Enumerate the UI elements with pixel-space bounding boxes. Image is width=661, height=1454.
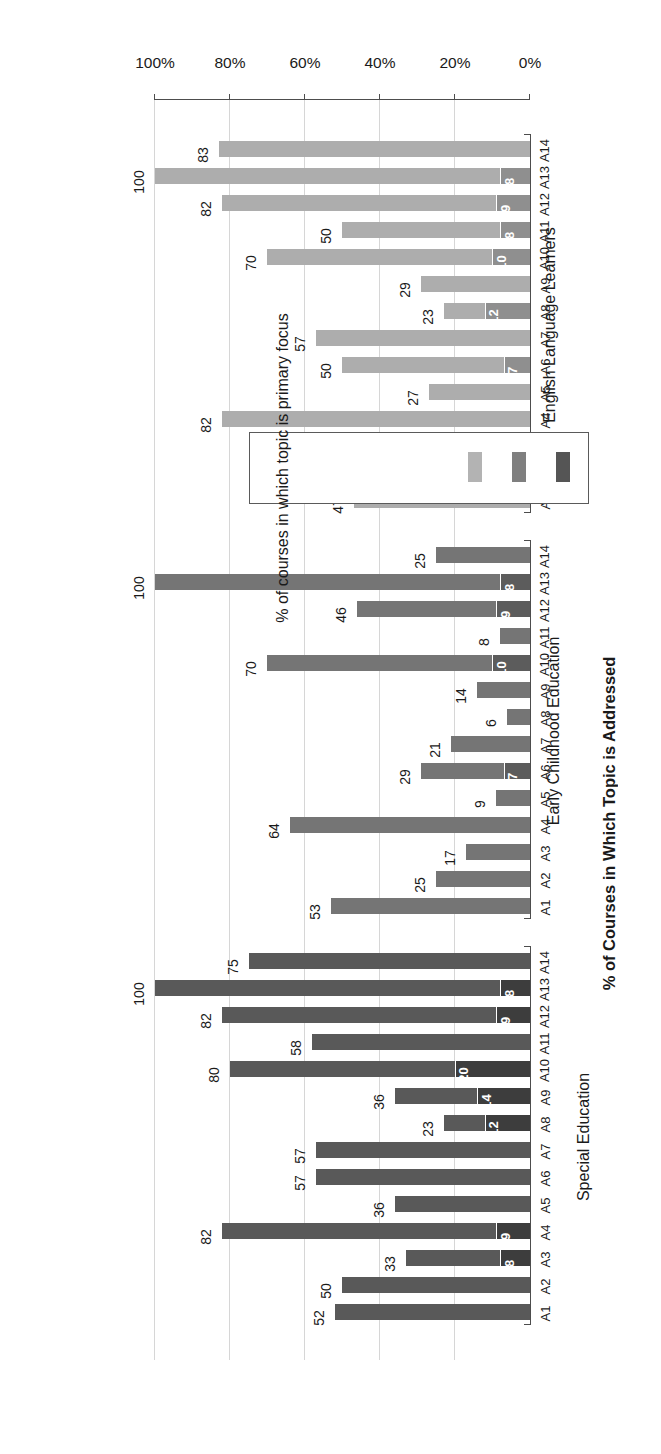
bar-primary-value-label: 9: [494, 1229, 516, 1244]
category-label: A2: [534, 873, 556, 888]
axis-tick-label: 80%: [200, 54, 260, 72]
bar-addressed[interactable]: [223, 1223, 531, 1239]
bar-row: A914: [155, 676, 530, 703]
category-label: A8: [534, 305, 556, 320]
bar-value-label: 57: [287, 1175, 313, 1191]
bar-primary-value-label: 7: [502, 363, 524, 378]
bar-row: A12982: [155, 1001, 530, 1028]
bar-addressed[interactable]: [331, 898, 530, 914]
bar-addressed[interactable]: [508, 709, 531, 725]
bar-addressed[interactable]: [466, 844, 530, 860]
bar-addressed[interactable]: [429, 384, 530, 400]
bar-row: A929: [155, 270, 530, 297]
bar-addressed[interactable]: [249, 953, 530, 969]
bar-addressed[interactable]: [395, 1196, 530, 1212]
bar-value-label: 53: [302, 904, 328, 920]
bar-addressed[interactable]: [155, 980, 530, 996]
group-title: English Language Learners: [568, 316, 648, 334]
bar-value-label: 23: [415, 1121, 441, 1137]
category-label: A10: [534, 251, 556, 266]
legend-contents: % of courses in which topic is primary f…: [250, 433, 588, 503]
category-label: A10: [534, 657, 556, 672]
bar-value-label: 25: [407, 877, 433, 893]
bar-row: A3833: [155, 1244, 530, 1271]
bar-addressed[interactable]: [290, 817, 530, 833]
bar-addressed[interactable]: [451, 736, 530, 752]
axis-tick-label: 0%: [500, 54, 560, 72]
bar-row: A317: [155, 838, 530, 865]
category-label: A8: [534, 711, 556, 726]
category-label: A3: [534, 1252, 556, 1267]
bar-addressed[interactable]: [223, 411, 531, 427]
bar-addressed[interactable]: [219, 141, 530, 157]
bar-value-label: 57: [287, 1148, 313, 1164]
category-label: A14: [534, 955, 556, 970]
category-label: A14: [534, 143, 556, 158]
category-label: A4: [534, 1225, 556, 1240]
bar-row: A721: [155, 730, 530, 757]
plot-area: 0%20%40%60%80%100% Special EducationA152…: [155, 100, 530, 1360]
category-label: A13: [534, 982, 556, 997]
bar-addressed[interactable]: [436, 871, 530, 887]
category-label: A12: [534, 603, 556, 618]
bar-addressed[interactable]: [496, 790, 530, 806]
bar-value-label: 100: [126, 580, 152, 596]
bar-row: A1158: [155, 1028, 530, 1055]
bar-value-label: 29: [392, 769, 418, 785]
value-axis-title-text: % of Courses in Which Topic is Addressed: [600, 657, 619, 991]
bar-addressed[interactable]: [313, 1034, 531, 1050]
bar-primary-value-label: 8: [498, 228, 520, 243]
bar-row: A11850: [155, 216, 530, 243]
category-label: A8: [534, 1117, 556, 1132]
axis-tick: [529, 94, 530, 100]
bar-row: A1475: [155, 947, 530, 974]
bar-row: A153: [155, 892, 530, 919]
bar-addressed[interactable]: [343, 1277, 531, 1293]
bar-addressed[interactable]: [500, 628, 530, 644]
category-label: A1: [534, 1306, 556, 1321]
bar-primary-value-label: 7: [502, 769, 524, 784]
category-label: A10: [534, 1063, 556, 1078]
group-category-axis: [530, 947, 531, 1325]
bar-group: Early Childhood EducationA153A225A317A46…: [155, 541, 530, 919]
bar-addressed[interactable]: [223, 1007, 531, 1023]
axis-tick-label: 60%: [275, 54, 335, 72]
value-axis-line: [154, 99, 530, 100]
bar-row: A81223: [155, 297, 530, 324]
bar-row: A12946: [155, 595, 530, 622]
bar-addressed[interactable]: [155, 574, 530, 590]
category-label: A12: [534, 1009, 556, 1024]
bar-value-label: 33: [377, 1256, 403, 1272]
bar-row: A138100: [155, 162, 530, 189]
category-label: A13: [534, 576, 556, 591]
bar-value-label: 29: [392, 282, 418, 298]
category-label: A6: [534, 359, 556, 374]
bar-addressed[interactable]: [421, 276, 530, 292]
bar-value-label: 82: [194, 417, 220, 433]
category-label: A5: [534, 386, 556, 401]
bar-row: A102080: [155, 1055, 530, 1082]
bar-value-label: 100: [126, 986, 152, 1002]
bar-addressed[interactable]: [335, 1304, 530, 1320]
bar-addressed[interactable]: [316, 330, 530, 346]
bar-addressed[interactable]: [316, 1169, 530, 1185]
bar-row: A86: [155, 703, 530, 730]
bar-addressed[interactable]: [155, 168, 530, 184]
bar-value-label: 46: [329, 607, 355, 623]
bar-value-label: 52: [306, 1310, 332, 1326]
bar-primary-value-label: 9: [494, 201, 516, 216]
category-label: A9: [534, 684, 556, 699]
bar-primary-value-label: 8: [498, 174, 520, 189]
axis-tick-label: 40%: [350, 54, 410, 72]
bar-addressed[interactable]: [436, 547, 530, 563]
chart-legend: % of courses in which topic is primary f…: [249, 432, 589, 504]
bar-row: A250: [155, 1271, 530, 1298]
bar-row: A81223: [155, 1109, 530, 1136]
bar-addressed[interactable]: [316, 1142, 530, 1158]
bar-addressed[interactable]: [223, 195, 531, 211]
bar-row: A1483: [155, 135, 530, 162]
bar-row: A91436: [155, 1082, 530, 1109]
bar-addressed[interactable]: [478, 682, 531, 698]
bar-value-label: 64: [261, 823, 287, 839]
bar-value-label: 14: [449, 688, 475, 704]
